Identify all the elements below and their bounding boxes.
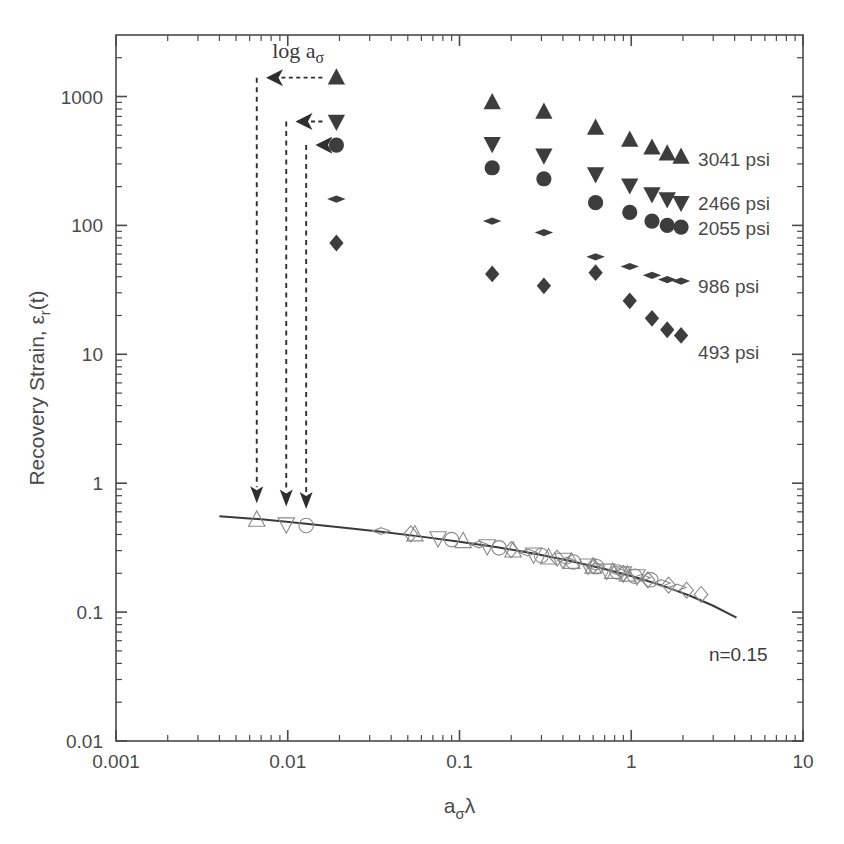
marker-master-curve-2055-0: [299, 518, 313, 532]
marker-493-psi-0: [329, 235, 343, 252]
y-axis-title: Recovery Strain, εr(t): [25, 290, 53, 485]
marker-2055-psi-1: [485, 160, 500, 175]
recovery-strain-chart-figure: 0.0010.010.1110 0.010.11101001000 3041 p…: [0, 0, 844, 844]
x-tick-label-0: 0.001: [92, 751, 140, 772]
x-axis-tick-labels: 0.0010.010.1110: [92, 751, 813, 772]
marker-3041-psi-1: [484, 93, 501, 109]
y-tick-label-3: 10: [82, 344, 103, 365]
series-label-986-psi: 986 psi: [698, 276, 759, 297]
marker-493-psi-1: [485, 266, 499, 283]
plot-frame: [116, 35, 803, 741]
shift-arrow-2055-head: [300, 492, 313, 509]
marker-2466-psi-2: [535, 149, 552, 165]
marker-2055-psi-0: [329, 137, 344, 152]
marker-3041-psi-5: [643, 138, 660, 154]
series-label-2055-psi: 2055 psi: [698, 218, 770, 239]
y-axis-tick-labels: 0.010.11101001000: [61, 87, 103, 752]
plot-border: [116, 35, 803, 741]
marker-493-psi-6: [660, 321, 674, 338]
x-tick-label-2: 0.1: [446, 751, 472, 772]
marker-986-psi-0: [327, 195, 345, 202]
series-labels: 3041 psi2466 psi2055 psi986 psi493 psi: [698, 149, 770, 363]
marker-2466-psi-7: [672, 196, 689, 212]
marker-986-psi-3: [586, 253, 604, 260]
marker-2055-psi-5: [644, 213, 659, 228]
marker-2466-psi-6: [659, 192, 676, 208]
marker-493-psi-5: [645, 310, 659, 327]
marker-2055-psi-4: [622, 205, 637, 220]
plot-canvas: 0.0010.010.1110 0.010.11101001000 3041 p…: [0, 0, 844, 844]
marker-986-psi-7: [672, 277, 690, 284]
marker-986-psi-1: [483, 217, 501, 224]
marker-3041-psi-7: [672, 147, 689, 163]
x-tick-label-3: 1: [626, 751, 637, 772]
marker-986-psi-6: [658, 276, 676, 283]
shift-arrow-2466-head: [280, 489, 293, 506]
marker-986-psi-4: [621, 263, 639, 270]
x-tick-label-1: 0.01: [269, 751, 306, 772]
x-tick-label-4: 10: [792, 751, 813, 772]
chart-annotations: log aσn=0.15: [272, 38, 767, 665]
y-tick-label-4: 100: [71, 215, 103, 236]
data-markers: [249, 68, 708, 602]
marker-2055-psi-2: [536, 171, 551, 186]
y-tick-label-1: 0.1: [77, 602, 103, 623]
marker-493-psi-4: [623, 292, 637, 309]
y-tick-label-2: 1: [92, 473, 103, 494]
marker-3041-psi-0: [328, 68, 345, 84]
series-label-2466-psi: 2466 psi: [698, 193, 770, 214]
shift-arrow-3041-head: [250, 486, 263, 503]
shift-factor-annotation: log aσ: [272, 38, 324, 66]
marker-2466-psi-1: [484, 137, 501, 153]
marker-986-psi-2: [535, 229, 553, 236]
slope-annotation: n=0.15: [709, 644, 768, 665]
marker-3041-psi-2: [535, 102, 552, 118]
series-label-3041-psi: 3041 psi: [698, 149, 770, 170]
x-axis-title: aσλ: [444, 794, 476, 822]
x-axis-ticks: [116, 35, 803, 741]
marker-2055-psi-3: [588, 195, 603, 210]
marker-3041-psi-3: [587, 119, 604, 135]
marker-2466-psi-5: [643, 187, 660, 203]
power-law-fit-curve: [219, 516, 736, 618]
y-tick-label-0: 0.01: [66, 731, 103, 752]
marker-493-psi-3: [588, 264, 602, 281]
marker-3041-psi-4: [621, 131, 638, 147]
series-label-493-psi: 493 psi: [698, 342, 759, 363]
marker-2055-psi-7: [673, 220, 688, 235]
marker-2466-psi-3: [587, 167, 604, 183]
marker-986-psi-5: [643, 272, 661, 279]
fit-curve-line: [219, 516, 736, 618]
marker-2466-psi-0: [328, 115, 345, 131]
marker-493-psi-7: [674, 327, 688, 344]
y-tick-label-5: 1000: [61, 87, 103, 108]
marker-2466-psi-4: [621, 178, 638, 194]
shift-factor-arrows: [250, 78, 322, 509]
marker-3041-psi-6: [659, 144, 676, 160]
marker-493-psi-2: [537, 277, 551, 294]
marker-2055-psi-6: [660, 218, 675, 233]
